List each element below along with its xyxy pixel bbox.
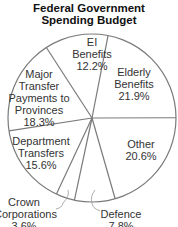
label-major-transfer-payments: Major Transfer Payments to Provinces 18.… — [8, 68, 70, 128]
label-department-transfers: Department Transfers 15.6% — [8, 135, 74, 171]
label-other: Other 20.6% — [116, 138, 166, 162]
label-crown-corporations: Crown Corporations 3.6% — [0, 196, 54, 227]
label-defence: Defence 7.8% — [96, 208, 146, 227]
label-elderly-benefits: Elderly Benefits 21.9% — [104, 66, 164, 102]
